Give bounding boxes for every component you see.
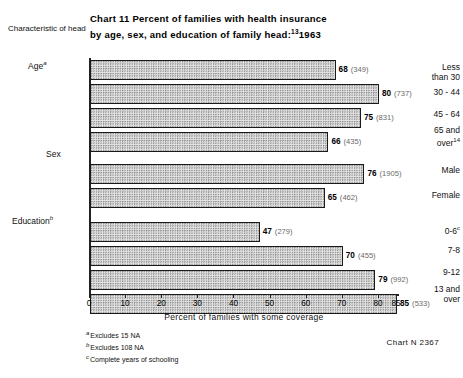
- bar-less-than-30: [90, 60, 336, 80]
- group-heading-education-label: Education: [12, 216, 50, 226]
- x-axis-tick-mark: [342, 294, 343, 298]
- bar-45-64: [90, 108, 361, 128]
- bar-percent-value: 76: [367, 169, 376, 178]
- bar-value-label-45-64: 75(831): [364, 113, 394, 122]
- bar-percent-value: 66: [331, 137, 340, 146]
- x-axis-tick-mark: [89, 294, 90, 298]
- chart-title-footnote-ref: 13: [291, 28, 299, 35]
- x-axis-tick-label: 70: [337, 299, 346, 308]
- footnote-a: aExcludes 15 NA: [86, 329, 178, 341]
- bar-percent-value: 70: [346, 251, 355, 260]
- bar-count-value: (533): [412, 299, 430, 308]
- x-axis-tick-mark: [270, 294, 271, 298]
- footnote-text: Excludes 15 NA: [90, 332, 140, 339]
- bar-value-label-less-than-30: 68(349): [339, 65, 369, 74]
- footnote-c: cComplete years of schooling: [86, 353, 178, 365]
- bar-percent-value: 65: [328, 193, 337, 202]
- x-axis-tick-label: 10: [121, 299, 130, 308]
- group-heading-age-marker: a: [43, 60, 46, 66]
- footnote-b: bExcludes 108 NA: [86, 341, 178, 353]
- x-axis-tick-mark: [125, 294, 126, 298]
- chart-title: Chart 11 Percent of families with health…: [90, 12, 410, 41]
- x-axis-tick-mark: [197, 294, 198, 298]
- bar-count-value: (1905): [380, 169, 402, 178]
- bar-value-label-65-and-over: 66(435): [331, 137, 361, 146]
- bar-value-label-male: 76(1905): [367, 169, 401, 178]
- x-axis-tick-mark: [378, 294, 379, 298]
- footnote-marker: b: [86, 342, 89, 348]
- x-axis-tick-label: 20: [157, 299, 166, 308]
- bar-value-label-9-12: 79(992): [378, 275, 408, 284]
- bar-13-and-over: [90, 294, 397, 314]
- bar-value-label-30-44: 80(737): [382, 89, 412, 98]
- x-axis-tick-label: 80: [373, 299, 382, 308]
- x-axis-tick-label: 60: [301, 299, 310, 308]
- x-axis-tick-mark: [233, 294, 234, 298]
- x-axis-tick-label: 30: [193, 299, 202, 308]
- chart-plot-area: 68(349) 80(737) 75(831) 66(435) 76(1905)…: [89, 58, 463, 295]
- footnote-text: Complete years of schooling: [90, 356, 178, 363]
- bar-percent-value: 68: [339, 65, 348, 74]
- bar-count-value: (455): [358, 251, 376, 260]
- x-axis-title: Percent of families with some coverage: [89, 312, 399, 322]
- chart-title-line-2-text: by age, sex, and education of family hea…: [90, 29, 291, 40]
- bar-count-value: (992): [390, 275, 408, 284]
- x-axis-tick-mark: [396, 294, 397, 298]
- bar-count-value: (737): [394, 89, 412, 98]
- x-axis-tick-label: 85: [391, 299, 400, 308]
- bar-count-value: (349): [351, 65, 369, 74]
- group-heading-education-marker: b: [50, 215, 53, 221]
- bar-value-label-7-8: 70(455): [346, 251, 376, 260]
- bar-0-6: [90, 222, 260, 242]
- bar-count-value: (435): [343, 137, 361, 146]
- bar-65-and-over: [90, 132, 328, 152]
- chart-title-year: 1963: [299, 29, 321, 40]
- group-heading-age-label: Age: [28, 61, 43, 71]
- footnotes: aExcludes 15 NA bExcludes 108 NA cComple…: [86, 329, 178, 364]
- group-heading-education: Educationb: [12, 215, 53, 226]
- bar-male: [90, 164, 364, 184]
- x-axis-tick-label: 0: [87, 299, 92, 308]
- bar-female: [90, 188, 325, 208]
- bar-value-label-13-and-over: 85(533): [400, 299, 430, 308]
- bar-percent-value: 80: [382, 89, 391, 98]
- x-axis-tick-mark: [306, 294, 307, 298]
- bar-count-value: (279): [275, 227, 293, 236]
- footnote-text: Excludes 108 NA: [90, 344, 144, 351]
- bar-percent-value: 85: [400, 299, 409, 308]
- bar-30-44: [90, 84, 379, 104]
- group-heading-sex-label: Sex: [46, 149, 61, 159]
- bar-value-label-female: 65(462): [328, 193, 358, 202]
- group-heading-age: Agea: [28, 60, 46, 71]
- x-axis-tick-mark: [161, 294, 162, 298]
- group-heading-sex: Sex: [46, 148, 61, 159]
- x-axis-tick-label: 40: [229, 299, 238, 308]
- footnote-marker: c: [86, 354, 89, 360]
- bar-count-value: (462): [340, 193, 358, 202]
- bar-9-12: [90, 270, 375, 290]
- x-axis-tick-label: 50: [265, 299, 274, 308]
- bar-count-value: (831): [376, 113, 394, 122]
- bar-percent-value: 47: [263, 227, 272, 236]
- bar-value-label-0-6: 47(279): [263, 227, 293, 236]
- chart-title-line-2: by age, sex, and education of family hea…: [90, 25, 410, 41]
- chart-title-line-1: Chart 11 Percent of families with health…: [90, 12, 410, 25]
- bar-percent-value: 79: [378, 275, 387, 284]
- bar-7-8: [90, 246, 343, 266]
- bar-percent-value: 75: [364, 113, 373, 122]
- axis-corner-label: Characteristic of head: [8, 24, 86, 34]
- footnote-marker: a: [86, 330, 89, 336]
- chart-number: Chart N 2367: [387, 338, 439, 347]
